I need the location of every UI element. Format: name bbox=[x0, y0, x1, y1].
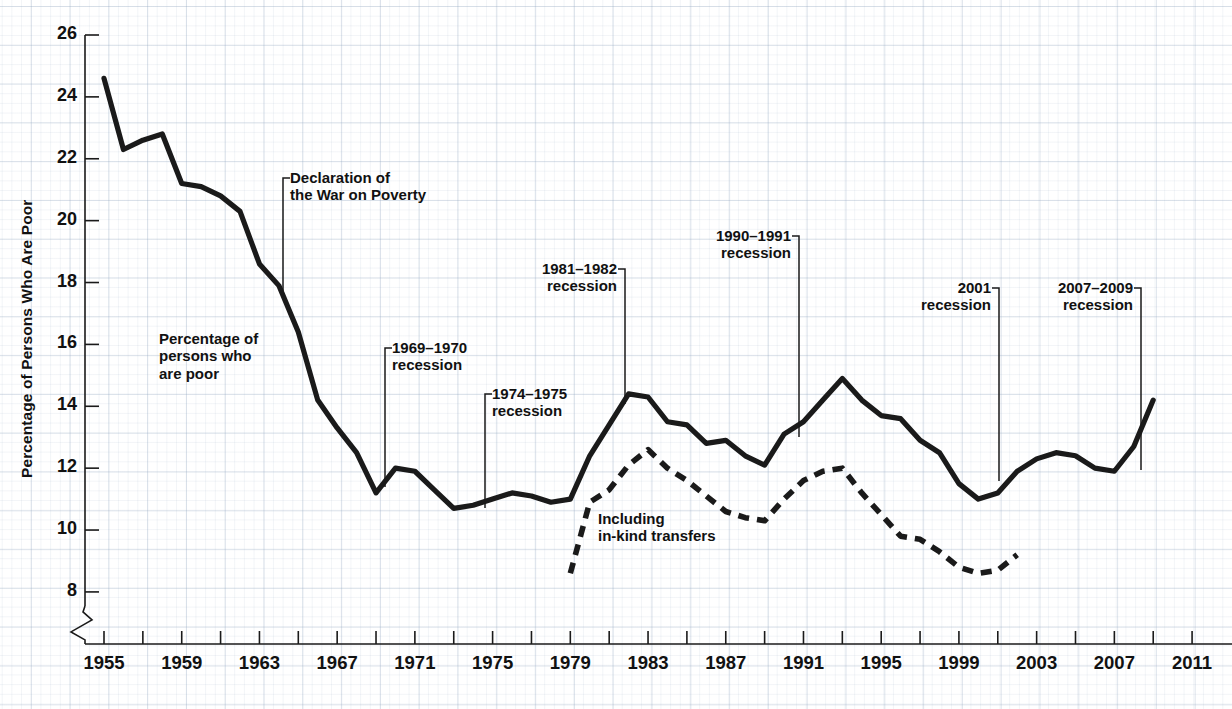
x-tick-label-1971: 1971 bbox=[370, 652, 460, 674]
annotation-line: recession bbox=[392, 357, 467, 374]
annotation-line: 1974–1975 bbox=[492, 386, 567, 403]
x-tick-label-1955: 1955 bbox=[59, 652, 149, 674]
series-label-line: persons who bbox=[159, 347, 258, 364]
series-label-line: are poor bbox=[159, 365, 258, 382]
series-line-poverty-rate bbox=[104, 78, 1153, 508]
y-tick-label-12: 12 bbox=[31, 456, 77, 477]
annotation-recession-2001: 2001recession bbox=[921, 280, 991, 314]
annotation-line: 1981–1982 bbox=[542, 261, 617, 278]
series-label-line: in-kind transfers bbox=[598, 527, 716, 544]
annotation-recession-2007-2009: 2007–2009recession bbox=[1058, 280, 1133, 314]
x-tick-label-1999: 1999 bbox=[914, 652, 1004, 674]
y-tick-label-26: 26 bbox=[31, 23, 77, 44]
annotation-line: recession bbox=[542, 278, 617, 295]
annotation-line: recession bbox=[1058, 297, 1133, 314]
series-label-in-kind-label: Includingin-kind transfers bbox=[598, 510, 716, 545]
x-tick-label-1987: 1987 bbox=[681, 652, 771, 674]
annotation-line: 1969–1970 bbox=[392, 340, 467, 357]
annotation-line: recession bbox=[716, 245, 791, 262]
x-tick-label-1963: 1963 bbox=[214, 652, 304, 674]
annotation-recession-1981-1982: 1981–1982recession bbox=[542, 261, 617, 295]
annotation-line: the War on Poverty bbox=[290, 187, 426, 204]
annotation-line: recession bbox=[492, 403, 567, 420]
y-axis-title: Percentage of Persons Who Are Poor bbox=[18, 200, 36, 478]
x-tick-label-1991: 1991 bbox=[758, 652, 848, 674]
annotation-recession-1969-1970: 1969–1970recession bbox=[392, 340, 467, 374]
y-tick-label-14: 14 bbox=[31, 394, 77, 415]
series-label-poor-label: Percentage ofpersons whoare poor bbox=[159, 330, 258, 382]
annotation-line: 1990–1991 bbox=[716, 228, 791, 245]
y-tick-label-18: 18 bbox=[31, 271, 77, 292]
x-tick-label-1979: 1979 bbox=[525, 652, 615, 674]
data-series-group bbox=[104, 78, 1153, 573]
y-tick-label-24: 24 bbox=[31, 85, 77, 106]
x-tick-label-1975: 1975 bbox=[448, 652, 538, 674]
annotation-line: Declaration of bbox=[290, 170, 426, 187]
annotation-recession-1974-1975: 1974–1975recession bbox=[492, 386, 567, 420]
annotation-war-on-poverty: Declaration ofthe War on Poverty bbox=[290, 170, 426, 204]
y-tick-label-10: 10 bbox=[31, 518, 77, 539]
annotation-line: 2001 bbox=[921, 280, 991, 297]
chart-plot-area: 8101214161820222426 19551959196319671971… bbox=[0, 0, 1232, 709]
x-tick-label-1995: 1995 bbox=[836, 652, 926, 674]
y-tick-label-8: 8 bbox=[31, 580, 77, 601]
annotation-line: 2007–2009 bbox=[1058, 280, 1133, 297]
y-tick-label-16: 16 bbox=[31, 332, 77, 353]
x-tick-label-1967: 1967 bbox=[292, 652, 382, 674]
annotation-recession-1990-1991: 1990–1991recession bbox=[716, 228, 791, 262]
series-label-line: Percentage of bbox=[159, 330, 258, 347]
annotation-line: recession bbox=[921, 297, 991, 314]
y-tick-label-20: 20 bbox=[31, 209, 77, 230]
x-tick-label-1983: 1983 bbox=[603, 652, 693, 674]
y-tick-label-22: 22 bbox=[31, 147, 77, 168]
x-tick-label-2007: 2007 bbox=[1069, 652, 1159, 674]
x-tick-label-2011: 2011 bbox=[1147, 652, 1232, 674]
series-label-line: Including bbox=[598, 510, 716, 527]
x-tick-label-1959: 1959 bbox=[137, 652, 227, 674]
x-tick-label-2003: 2003 bbox=[992, 652, 1082, 674]
